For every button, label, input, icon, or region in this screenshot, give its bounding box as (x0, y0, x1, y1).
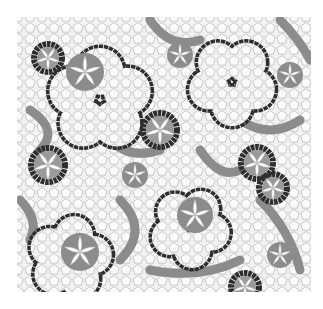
tiling-canvas (0, 0, 323, 309)
gray-flower (267, 242, 293, 268)
gray-flower (277, 62, 303, 88)
gray-flower (66, 53, 104, 91)
gray-flower (61, 233, 99, 271)
dark-star (143, 113, 177, 147)
gray-flower (177, 197, 213, 233)
dark-star (259, 174, 287, 202)
tiling-region (17, 17, 311, 301)
dark-star (34, 44, 62, 72)
gray-flower (122, 162, 148, 188)
gray-flower (167, 42, 193, 68)
dark-star (31, 148, 65, 182)
